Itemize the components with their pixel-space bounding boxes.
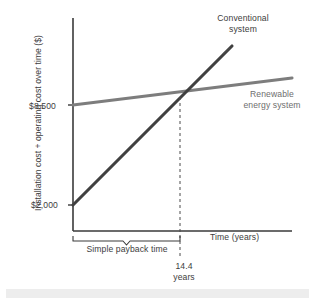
intersection-label: 14.4 years bbox=[158, 261, 210, 283]
chart-figure: Installation cost + operating cost over … bbox=[0, 0, 315, 298]
series-line-conventional bbox=[73, 46, 232, 205]
series-label-conventional: Conventional system bbox=[203, 13, 283, 34]
y-tick-label-high: $8,500 bbox=[29, 101, 56, 112]
series-label-renewable: Renewable energy system bbox=[230, 89, 314, 110]
x-axis-label: Time (years) bbox=[210, 232, 259, 243]
bottom-band bbox=[6, 289, 309, 298]
y-tick-label-low: $2,000 bbox=[31, 200, 58, 211]
payback-bracket-label: Simple payback time bbox=[73, 244, 181, 255]
y-axis-label: Installation cost + operating cost over … bbox=[33, 28, 43, 218]
